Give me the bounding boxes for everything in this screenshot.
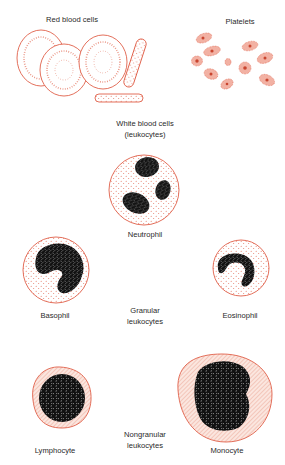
red-blood-cells-drawing: [17, 30, 147, 102]
label-leukocytes: (leukocytes): [95, 130, 195, 139]
label-granular: Granular: [110, 306, 180, 315]
label-granular-leukocytes: leukocytes: [110, 317, 180, 326]
basophil-drawing: [23, 237, 89, 303]
label-eosinophil: Eosinophil: [205, 311, 275, 320]
neutrophil-drawing: [109, 155, 179, 225]
label-lymphocyte: Lymphocyte: [20, 446, 90, 455]
lymphocyte-drawing: [33, 367, 91, 428]
label-monocyte: Monocyte: [192, 446, 262, 455]
label-platelets: Platelets: [210, 17, 270, 26]
label-basophil: Basophil: [20, 311, 90, 320]
label-nongranular-leukocytes: leukocytes: [110, 441, 180, 450]
label-white-blood-cells: White blood cells: [95, 119, 195, 128]
platelets-drawing: [192, 31, 277, 91]
eosinophil-drawing: [213, 240, 269, 296]
label-nongranular: Nongranular: [110, 430, 180, 439]
label-red-blood-cells: Red blood cells: [32, 15, 112, 24]
monocyte-drawing: [178, 354, 272, 442]
label-neutrophil: Neutrophil: [105, 230, 185, 239]
